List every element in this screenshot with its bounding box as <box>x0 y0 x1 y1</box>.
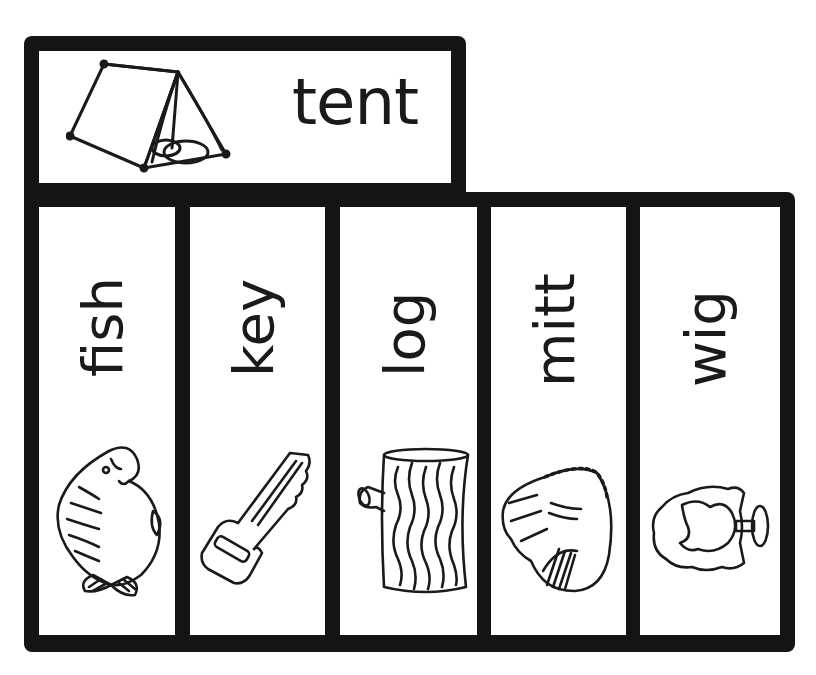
mitt-icon <box>497 463 619 603</box>
word-card-fish: fish <box>39 207 175 635</box>
key-icon <box>198 449 316 589</box>
card-word: log <box>377 292 433 377</box>
card-word: fish <box>75 277 131 377</box>
card-word: mitt <box>527 273 583 387</box>
card-word: key <box>226 279 282 377</box>
fish-icon <box>49 439 167 609</box>
word-card-log: log <box>340 207 477 635</box>
word-card-mitt: mitt <box>491 207 626 635</box>
card-word: wig <box>678 290 734 387</box>
log-icon <box>352 447 470 597</box>
header-word: tent <box>292 70 418 134</box>
wig-icon <box>648 483 772 573</box>
word-card-wig: wig <box>640 207 780 635</box>
word-card-key: key <box>190 207 325 635</box>
tent-icon <box>66 58 236 180</box>
